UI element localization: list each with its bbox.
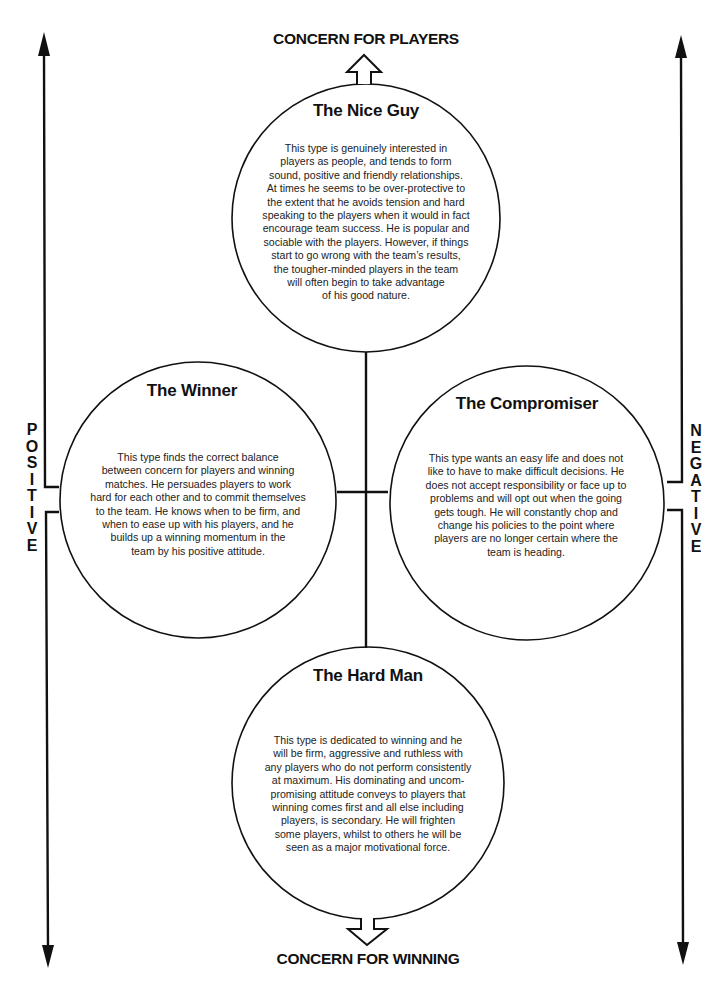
positive-label: P O S I T I V E xyxy=(22,422,42,554)
negative-axis-up-arrow-icon xyxy=(675,35,687,58)
compromiser-description: This type wants an easy life and does no… xyxy=(426,452,627,559)
nice-guy-title: The Nice Guy xyxy=(313,101,419,121)
concern-for-winning-arrow-icon xyxy=(348,918,387,945)
positive-axis-lower xyxy=(46,512,59,948)
hard-man-title: The Hard Man xyxy=(313,666,423,686)
positive-axis-up-arrow-icon xyxy=(38,32,50,56)
hard-man-description: This type is dedicated to winning and he… xyxy=(265,734,472,855)
concern-for-players-label: CONCERN FOR PLAYERS xyxy=(273,30,459,48)
negative-axis-lower xyxy=(667,510,683,945)
winner-title: The Winner xyxy=(147,381,237,401)
nice-guy-description: This type is genuinely interested in pla… xyxy=(262,142,469,303)
positive-axis-down-arrow-icon xyxy=(42,945,54,968)
negative-axis-down-arrow-icon xyxy=(677,942,689,965)
concern-for-players-arrow-icon xyxy=(347,55,381,84)
negative-axis-upper xyxy=(667,55,682,482)
positive-axis-upper xyxy=(44,52,59,487)
negative-label: N E G A T I V E xyxy=(686,423,706,555)
concern-for-winning-label: CONCERN FOR WINNING xyxy=(277,950,460,968)
winner-description: This type finds the correct balance betw… xyxy=(90,451,306,558)
compromiser-title: The Compromiser xyxy=(456,394,598,414)
